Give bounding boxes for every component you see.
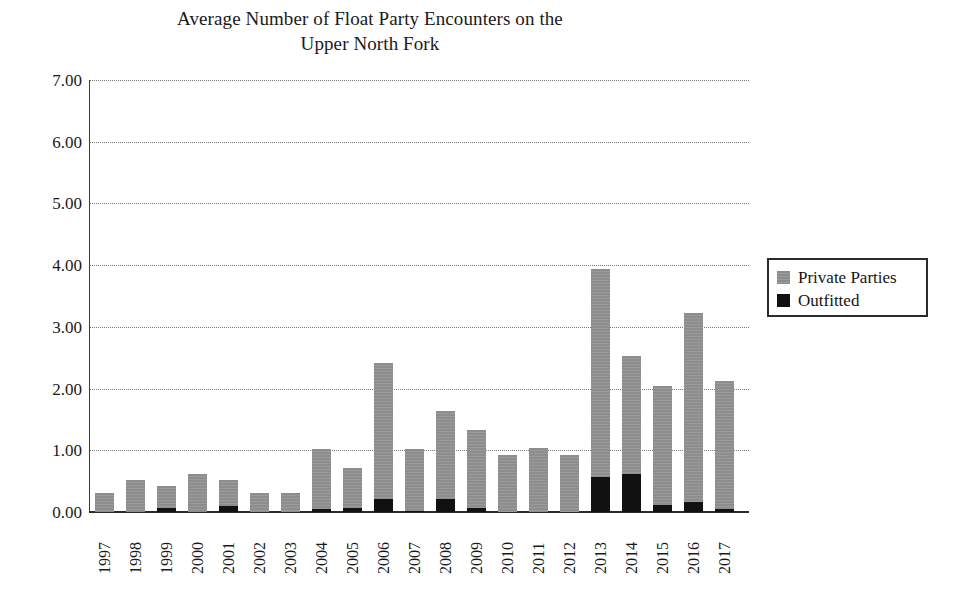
bar-segment-private-parties[interactable] xyxy=(529,448,548,512)
bar-segment-outfitted[interactable] xyxy=(219,506,238,512)
legend-item-private-parties[interactable]: Private Parties xyxy=(777,266,918,289)
bar-segment-private-parties[interactable] xyxy=(126,480,145,512)
bar-segment-private-parties[interactable] xyxy=(343,468,362,508)
x-axis-tick-label: 1999 xyxy=(157,514,176,574)
x-axis-tick-label: 2013 xyxy=(591,514,610,574)
x-axis-tick-label: 1997 xyxy=(95,514,114,574)
y-axis-tick-label: 6.00 xyxy=(20,134,82,151)
x-axis-tick-label: 2017 xyxy=(715,514,734,574)
bar-group[interactable] xyxy=(467,430,486,512)
bar-group[interactable] xyxy=(591,269,610,512)
bar-segment-outfitted[interactable] xyxy=(591,477,610,512)
legend-swatch-outfitted-icon xyxy=(777,294,790,307)
x-axis-tick-label: 2011 xyxy=(529,514,548,574)
bar-segment-outfitted[interactable] xyxy=(157,508,176,512)
x-axis-tick-label: 2008 xyxy=(436,514,455,574)
y-axis-tick-label: 0.00 xyxy=(20,504,82,521)
y-axis-tick-label: 1.00 xyxy=(20,442,82,459)
bar-segment-private-parties[interactable] xyxy=(467,430,486,508)
bar-group[interactable] xyxy=(343,468,362,512)
bar-group[interactable] xyxy=(157,486,176,512)
bar-group[interactable] xyxy=(126,480,145,512)
bar-segment-private-parties[interactable] xyxy=(219,480,238,507)
bar-segment-private-parties[interactable] xyxy=(684,313,703,502)
x-axis-tick-label: 2002 xyxy=(250,514,269,574)
bar-segment-outfitted[interactable] xyxy=(312,509,331,512)
legend-item-outfitted[interactable]: Outfitted xyxy=(777,289,918,312)
bar-group[interactable] xyxy=(374,363,393,512)
bar-group[interactable] xyxy=(715,381,734,512)
bar-segment-outfitted[interactable] xyxy=(715,509,734,512)
gridline xyxy=(90,265,749,266)
bar-segment-outfitted[interactable] xyxy=(684,502,703,512)
y-axis-tick-label: 2.00 xyxy=(20,381,82,398)
x-axis-tick-label: 2016 xyxy=(684,514,703,574)
y-axis-line xyxy=(89,80,90,512)
bar-segment-private-parties[interactable] xyxy=(715,381,734,509)
bar-group[interactable] xyxy=(188,474,207,512)
bar-segment-outfitted[interactable] xyxy=(405,511,424,512)
chart-legend: Private Parties Outfitted xyxy=(767,258,928,317)
bar-segment-private-parties[interactable] xyxy=(188,474,207,512)
bar-group[interactable] xyxy=(250,493,269,512)
x-axis-tick-label: 2005 xyxy=(343,514,362,574)
bar-segment-outfitted[interactable] xyxy=(622,474,641,512)
x-axis-tick-label: 1998 xyxy=(126,514,145,574)
chart-title: Average Number of Float Party Encounters… xyxy=(90,6,650,56)
bar-segment-outfitted[interactable] xyxy=(374,499,393,512)
x-axis-tick-label: 2012 xyxy=(560,514,579,574)
chart-figure: Average Number of Float Party Encounters… xyxy=(0,0,964,592)
bar-group[interactable] xyxy=(95,493,114,512)
x-axis-tick-label: 2006 xyxy=(374,514,393,574)
y-axis-tick-label: 4.00 xyxy=(20,257,82,274)
bar-group[interactable] xyxy=(622,356,641,512)
bar-group[interactable] xyxy=(653,386,672,512)
bar-group[interactable] xyxy=(684,313,703,512)
bar-group[interactable] xyxy=(436,411,455,512)
bar-segment-private-parties[interactable] xyxy=(281,493,300,512)
gridline xyxy=(90,80,749,81)
gridline xyxy=(90,389,749,390)
bar-group[interactable] xyxy=(405,449,424,512)
bar-segment-outfitted[interactable] xyxy=(653,505,672,512)
bar-group[interactable] xyxy=(281,493,300,512)
bar-group[interactable] xyxy=(529,448,548,512)
x-axis-tick-label: 2004 xyxy=(312,514,331,574)
bar-group[interactable] xyxy=(560,455,579,512)
bar-segment-private-parties[interactable] xyxy=(560,455,579,512)
x-axis-tick-label: 2009 xyxy=(467,514,486,574)
bar-segment-outfitted[interactable] xyxy=(436,499,455,512)
chart-title-line-2: Upper North Fork xyxy=(301,33,440,54)
y-axis-tick-label: 5.00 xyxy=(20,195,82,212)
x-axis-tick-labels: 1997199819992000200120022003200420052006… xyxy=(89,514,749,584)
bar-segment-private-parties[interactable] xyxy=(312,449,331,509)
x-axis-tick-label: 2007 xyxy=(405,514,424,574)
x-axis-tick-label: 2000 xyxy=(188,514,207,574)
bar-segment-private-parties[interactable] xyxy=(436,411,455,499)
y-axis-tick-labels: 7.006.005.004.003.002.001.000.00 xyxy=(12,80,82,512)
y-axis-tick-label: 7.00 xyxy=(20,72,82,89)
chart-title-line-1: Average Number of Float Party Encounters… xyxy=(177,8,563,29)
bar-segment-private-parties[interactable] xyxy=(405,449,424,511)
bar-group[interactable] xyxy=(219,480,238,512)
bar-segment-private-parties[interactable] xyxy=(498,455,517,512)
bar-group[interactable] xyxy=(312,449,331,512)
gridline xyxy=(90,327,749,328)
bar-segment-private-parties[interactable] xyxy=(591,269,610,476)
bar-segment-private-parties[interactable] xyxy=(95,493,114,512)
bar-segment-private-parties[interactable] xyxy=(250,493,269,512)
x-axis-tick-label: 2003 xyxy=(281,514,300,574)
bar-group[interactable] xyxy=(498,455,517,512)
bar-segment-outfitted[interactable] xyxy=(343,508,362,512)
legend-label-outfitted: Outfitted xyxy=(798,291,859,310)
bar-segment-private-parties[interactable] xyxy=(157,486,176,508)
x-axis-tick-label: 2015 xyxy=(653,514,672,574)
gridline xyxy=(90,142,749,143)
bar-segment-private-parties[interactable] xyxy=(374,363,393,499)
bar-segment-private-parties[interactable] xyxy=(622,356,641,474)
x-axis-tick-label: 2014 xyxy=(622,514,641,574)
bar-segment-outfitted[interactable] xyxy=(467,508,486,512)
bar-segment-private-parties[interactable] xyxy=(653,386,672,505)
plot-area xyxy=(89,80,749,512)
x-axis-tick-label: 2010 xyxy=(498,514,517,574)
